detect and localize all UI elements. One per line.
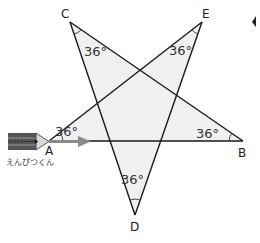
angle-label-D: 36° — [121, 172, 144, 187]
vertex-label-B: B — [238, 146, 246, 160]
angle-label-A: 36° — [55, 124, 78, 139]
angle-label-C: 36° — [84, 44, 107, 59]
star-diagram: 36° 36° 36° 36° 36° C E A B D えんぴつくん — [0, 0, 260, 243]
pencil-caption: えんぴつくん — [6, 158, 54, 167]
angle-label-E: 36° — [169, 43, 192, 58]
vertex-label-C: C — [61, 7, 69, 21]
vertex-label-E: E — [202, 7, 210, 21]
pencil-icon — [8, 133, 49, 150]
cropped-pencil-fragment-icon — [252, 16, 256, 27]
vertex-label-D: D — [130, 220, 139, 234]
angle-label-B: 36° — [196, 126, 219, 141]
vertex-label-A: A — [45, 144, 54, 158]
